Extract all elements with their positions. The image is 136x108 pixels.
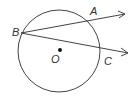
geometry-diagram: B A C O bbox=[0, 0, 136, 108]
label-a: A bbox=[89, 5, 97, 17]
diagram-svg: B A C O bbox=[0, 0, 136, 108]
label-b: B bbox=[12, 26, 19, 38]
label-o: O bbox=[51, 53, 60, 65]
label-c: C bbox=[104, 55, 112, 67]
center-point-o bbox=[58, 48, 62, 52]
ray-bc bbox=[21, 33, 128, 53]
